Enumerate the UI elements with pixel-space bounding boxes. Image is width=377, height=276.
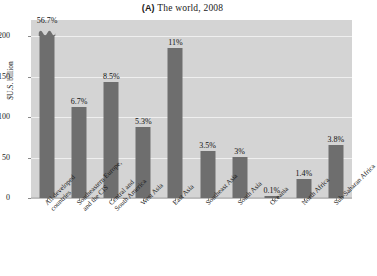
axis-break-marker [39,27,56,36]
bar-value-label: 3% [234,147,245,156]
chart-title: (A) The world, 2008 [0,3,365,13]
bar-series: 56.7%6.7%8.5%5.3%11%3.5%3%0.1%1.4%3.8% [31,20,352,198]
bar-slot: 1.4% [288,20,320,198]
y-tick-label: 50 [0,153,10,162]
bar-slot: 56.7% [31,20,63,198]
bar-slot: 6.7% [63,20,95,198]
y-tick-label: 0 [0,193,10,202]
bar-slot: 3.8% [320,20,352,198]
bar-value-label: 3.5% [199,141,216,150]
bar-slot: 3.5% [192,20,224,198]
bar [168,48,183,198]
bar [328,145,343,198]
bar-value-label: 56.7% [37,16,58,25]
bar-value-label: 8.5% [103,72,120,81]
bar-value-label: 3.8% [328,135,345,144]
chart-panel-tag: (A) [142,3,155,13]
bar-slot: 3% [224,20,256,198]
y-tick-label: 200 [0,31,10,40]
bar-value-label: 1.4% [296,169,313,178]
y-tick-label: 150 [0,72,10,81]
bar-slot: 5.3% [127,20,159,198]
bar-slot: 0.1% [256,20,288,198]
bar-value-label: 6.7% [71,97,88,106]
bar-value-label: 5.3% [135,117,152,126]
chart-title-text: The world, 2008 [155,3,223,13]
bar-slot: 11% [159,20,191,198]
y-tick-mark [28,198,31,199]
bar [40,32,55,198]
y-tick-label: 100 [0,112,10,121]
bar-value-label: 11% [168,38,182,47]
